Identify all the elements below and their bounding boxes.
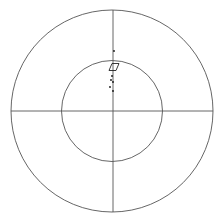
data-point — [113, 50, 115, 52]
plot-grid — [11, 10, 213, 212]
data-point — [111, 75, 113, 77]
plot-markers — [109, 64, 119, 71]
data-point — [112, 90, 114, 92]
polar-plot — [0, 0, 218, 224]
plot-points — [109, 50, 115, 92]
data-point — [110, 79, 112, 81]
data-point — [109, 86, 111, 88]
data-point — [112, 81, 114, 83]
parallelogram-marker — [109, 64, 119, 71]
